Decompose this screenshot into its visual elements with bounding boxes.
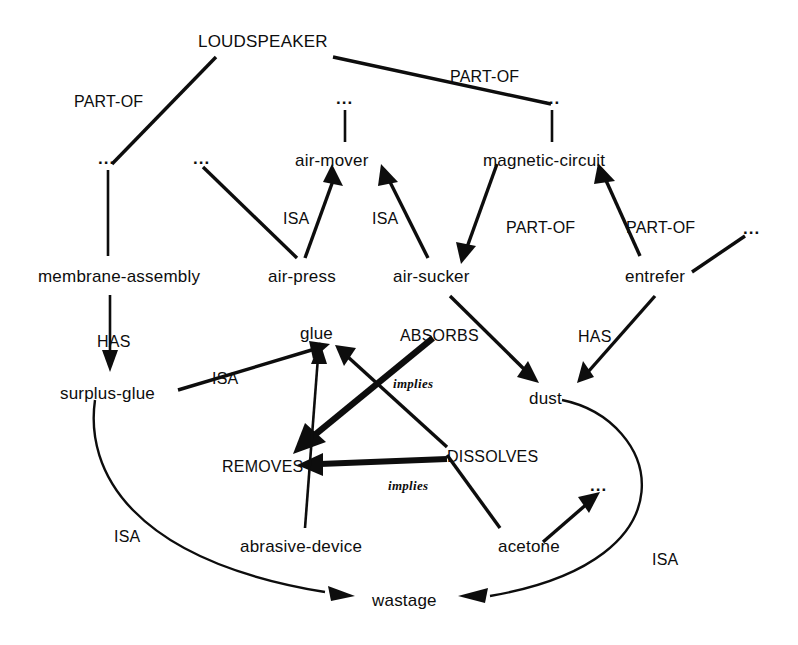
edge-acetone-to-ellipsis [543, 492, 600, 542]
node-entrefer[interactable]: entrefer [625, 268, 685, 285]
node-magnetic-circuit[interactable]: magnetic-circuit [483, 152, 605, 169]
node-air-mover[interactable]: air-mover [295, 152, 369, 169]
relation-absorbs: ABSORBS [400, 328, 479, 344]
edge-dissolves-to-glue [335, 345, 447, 447]
relation-removes: REMOVES [222, 459, 303, 475]
relation-has-surplus-glue: HAS [97, 334, 131, 350]
relation-implies-dissolves: implies [388, 479, 428, 492]
edge-entrefer-to-magnetic-circuit [594, 163, 640, 256]
node-ellipsis-magnetic[interactable]: ... [543, 90, 560, 107]
relation-isa-wastage-right: ISA [652, 552, 678, 568]
relation-part-of-air-sucker: PART-OF [506, 220, 575, 236]
relation-implies-absorbs: implies [393, 377, 433, 390]
relation-dissolves: DISSOLVES [447, 449, 538, 465]
node-air-sucker[interactable]: air-sucker [393, 268, 470, 285]
node-air-press[interactable]: air-press [268, 268, 336, 285]
relation-part-of-entrefer: PART-OF [626, 220, 695, 236]
relation-isa-wastage-left: ISA [114, 529, 140, 545]
node-abrasive-device[interactable]: abrasive-device [240, 538, 362, 555]
node-dust[interactable]: dust [529, 390, 562, 407]
relation-part-of-magnetic: PART-OF [450, 69, 519, 85]
edge-surplus-glue-to-glue [178, 341, 330, 390]
node-loudspeaker[interactable]: LOUDSPEAKER [198, 33, 328, 50]
relation-has-dust: HAS [578, 329, 612, 345]
diagram-canvas: LOUDSPEAKER ... ... ... ... ... ... air-… [0, 0, 798, 645]
edge-magnetic-circuit-to-air-sucker [456, 164, 497, 264]
edge-air-press-to-air-mover [305, 164, 343, 258]
relation-isa-air-press: ISA [283, 211, 309, 227]
node-ellipsis-airpress[interactable]: ... [193, 150, 210, 167]
relation-isa-air-sucker: ISA [372, 211, 398, 227]
edge-dissolves-implies-removes [297, 453, 447, 476]
edge-loudspeaker-to-ellipsis-left [112, 57, 216, 164]
edge-dust-to-wastage [458, 400, 642, 603]
node-wastage[interactable]: wastage [372, 592, 437, 609]
node-ellipsis-acetone[interactable]: ... [590, 477, 607, 494]
node-ellipsis-left[interactable]: ... [98, 150, 115, 167]
node-acetone[interactable]: acetone [498, 538, 560, 555]
relation-isa-surplus-glue: ISA [212, 371, 238, 387]
node-glue[interactable]: glue [300, 325, 333, 342]
node-surplus-glue[interactable]: surplus-glue [60, 385, 155, 402]
node-membrane-assembly[interactable]: membrane-assembly [38, 268, 200, 285]
edge-ellipsis-entrefer-to-entrefer [692, 236, 745, 272]
edge-acetone-to-dissolves [447, 455, 500, 528]
node-ellipsis-entrefer[interactable]: ... [743, 220, 760, 237]
relation-part-of-membrane: PART-OF [74, 94, 143, 110]
node-ellipsis-airmover[interactable]: ... [336, 90, 353, 107]
